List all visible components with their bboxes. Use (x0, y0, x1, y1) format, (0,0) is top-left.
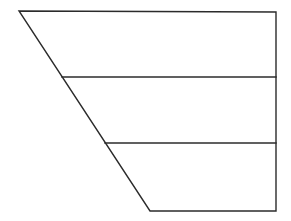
section-dividers (62, 77, 276, 143)
trapezoid-diagram (0, 0, 291, 221)
trapezoid-outline (19, 11, 276, 211)
